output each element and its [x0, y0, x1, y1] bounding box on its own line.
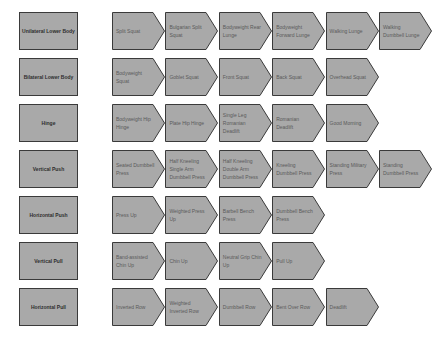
step-label: Barbell Bench Press	[223, 196, 263, 234]
category-label-box: Bilateral Lower Body	[19, 58, 78, 96]
step-label: Bent Over Row	[276, 288, 316, 326]
chevron-step: Bodyweight Hip Hinge	[112, 104, 165, 142]
step-label: Bulgarian Split Squat	[169, 12, 209, 50]
chevron-step: Front Squat	[219, 58, 272, 96]
step-label: Goblet Squat	[169, 58, 209, 96]
chevron-step: Overhead Squat	[326, 58, 379, 96]
step-label: Walking Lunge	[330, 12, 370, 50]
step-label: Kneeling Dumbbell Press	[276, 150, 316, 188]
step-label: Half Kneeling Double Arm Dumbbell Press	[223, 150, 263, 188]
step-label: Walking Dumbbell Lunge	[383, 12, 423, 50]
chevron-step: Half Kneeling Double Arm Dumbbell Press	[219, 150, 272, 188]
category-label-box: Horizontal Push	[19, 196, 78, 234]
step-label: Chin Up	[169, 242, 209, 280]
step-label: Inverted Row	[116, 288, 156, 326]
category-label-box: Vertical Pull	[19, 242, 78, 280]
step-label: Standing Military Press	[330, 150, 370, 188]
progression-row: Horizontal Push Press Up Weighted Press …	[0, 196, 446, 234]
step-label: Bodyweight Hip Hinge	[116, 104, 156, 142]
step-label: Overhead Squat	[330, 58, 370, 96]
chevron-step: Romanian Deadlift	[272, 104, 325, 142]
chevron-step: Pull Up	[272, 242, 325, 280]
chevron-step: Plate Hip Hinge	[165, 104, 218, 142]
chevron-step: Weighted Press Up	[165, 196, 218, 234]
progression-row: Bilateral Lower Body Bodyweight Squat Go…	[0, 58, 446, 96]
chevron-step: Bodyweight Rear Lunge	[219, 12, 272, 50]
step-label: Half Kneeling Single Arm Dumbbell Press	[169, 150, 209, 188]
chevron-step: Standing Dumbbell Press	[379, 150, 432, 188]
chevron-step: Kneeling Dumbbell Press	[272, 150, 325, 188]
chevron-step: Good Morning	[326, 104, 379, 142]
step-label: Bodyweight Forward Lunge	[276, 12, 316, 50]
step-label: Romanian Deadlift	[276, 104, 316, 142]
chevron-step: Inverted Row	[112, 288, 165, 326]
category-label-box: Hinge	[19, 104, 78, 142]
step-label: Seated Dumbbell Press	[116, 150, 156, 188]
chevron-step: Walking Dumbbell Lunge	[379, 12, 432, 50]
category-label-box: Unilateral Lower Body	[19, 12, 78, 50]
step-label: Neutral Grip Chin Up	[223, 242, 263, 280]
chevron-step: Bulgarian Split Squat	[165, 12, 218, 50]
progression-row: Vertical Push Seated Dumbbell Press Half…	[0, 150, 446, 188]
chevron-step: Back Squat	[272, 58, 325, 96]
step-label: Front Squat	[223, 58, 263, 96]
chevron-step: Neutral Grip Chin Up	[219, 242, 272, 280]
chevron-step: Goblet Squat	[165, 58, 218, 96]
category-label-box: Horizontal Pull	[19, 288, 78, 326]
step-label: Good Morning	[330, 104, 370, 142]
progression-row: Horizontal Pull Inverted Row Weighted In…	[0, 288, 446, 326]
progression-row: Hinge Bodyweight Hip Hinge Plate Hip Hin…	[0, 104, 446, 142]
chevron-step: Bodyweight Squat	[112, 58, 165, 96]
chevron-step: Band-assisted Chin Up	[112, 242, 165, 280]
step-label: Dumbbell Row	[223, 288, 263, 326]
chevron-step: Seated Dumbbell Press	[112, 150, 165, 188]
step-label: Weighted Press Up	[169, 196, 209, 234]
chevron-step: Standing Military Press	[326, 150, 379, 188]
chevron-step: Deadlift	[326, 288, 379, 326]
chevron-step: Half Kneeling Single Arm Dumbbell Press	[165, 150, 218, 188]
chevron-step: Chin Up	[165, 242, 218, 280]
step-label: Standing Dumbbell Press	[383, 150, 423, 188]
chevron-step: Dumbbell Bench Press	[272, 196, 325, 234]
chevron-step: Weighted Inverted Row	[165, 288, 218, 326]
step-label: Press Up	[116, 196, 156, 234]
chevron-step: Bent Over Row	[272, 288, 325, 326]
chevron-step: Split Squat	[112, 12, 165, 50]
step-label: Plate Hip Hinge	[169, 104, 209, 142]
chevron-step: Press Up	[112, 196, 165, 234]
step-label: Single Leg Romanian Deadlift	[223, 104, 263, 142]
step-label: Back Squat	[276, 58, 316, 96]
step-label: Pull Up	[276, 242, 316, 280]
step-label: Bodyweight Squat	[116, 58, 156, 96]
progression-row: Vertical Pull Band-assisted Chin Up Chin…	[0, 242, 446, 280]
progression-row: Unilateral Lower Body Split Squat Bulgar…	[0, 12, 446, 50]
step-label: Band-assisted Chin Up	[116, 242, 156, 280]
chevron-step: Barbell Bench Press	[219, 196, 272, 234]
step-label: Split Squat	[116, 12, 156, 50]
step-label: Deadlift	[330, 288, 370, 326]
chevron-step: Single Leg Romanian Deadlift	[219, 104, 272, 142]
category-label-box: Vertical Push	[19, 150, 78, 188]
chevron-step: Bodyweight Forward Lunge	[272, 12, 325, 50]
step-label: Weighted Inverted Row	[169, 288, 209, 326]
step-label: Dumbbell Bench Press	[276, 196, 316, 234]
chevron-step: Dumbbell Row	[219, 288, 272, 326]
step-label: Bodyweight Rear Lunge	[223, 12, 263, 50]
chevron-step: Walking Lunge	[326, 12, 379, 50]
